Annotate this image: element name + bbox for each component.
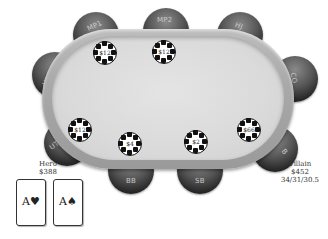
hero-info: Hero $388 — [28, 160, 68, 176]
villain-stats: 34/31/30.5 — [272, 176, 328, 184]
bet-amount-utg: $12 — [69, 126, 91, 133]
bet-chip-mp2: $12 — [152, 40, 176, 64]
seat-label-mp2: MP2 — [157, 16, 172, 24]
hero-card-1: A♥ — [16, 179, 46, 226]
bet-amount-mp1: $12 — [94, 49, 116, 56]
bet-amount-btn: $66 — [238, 126, 260, 133]
card-ace-of-spades: A♠ — [54, 195, 82, 208]
hero-card-2: A♠ — [53, 179, 83, 226]
hero-name: Hero — [28, 160, 68, 168]
hero-stack: $388 — [28, 168, 68, 176]
seat-label-bb: BB — [126, 177, 136, 185]
bet-amount-sb: $2 — [185, 138, 207, 145]
bet-chip-btn: $66 — [237, 118, 261, 142]
bet-amount-mp2: $12 — [153, 48, 175, 55]
card-ace-of-hearts: A♥ — [17, 195, 45, 208]
bet-amount-bb: $4 — [119, 140, 141, 147]
seat-label-btn: B — [280, 148, 289, 157]
bet-chip-sb: $2 — [184, 130, 208, 154]
bet-chip-mp1: $12 — [93, 41, 117, 65]
seat-label-sb: SB — [195, 177, 205, 185]
villain-info: Villain $452 34/31/30.5 — [272, 160, 328, 184]
villain-name: Villain — [272, 160, 328, 168]
bet-chip-utg: $12 — [68, 118, 92, 142]
villain-stack: $452 — [272, 168, 328, 176]
bet-chip-bb: $4 — [118, 132, 142, 156]
